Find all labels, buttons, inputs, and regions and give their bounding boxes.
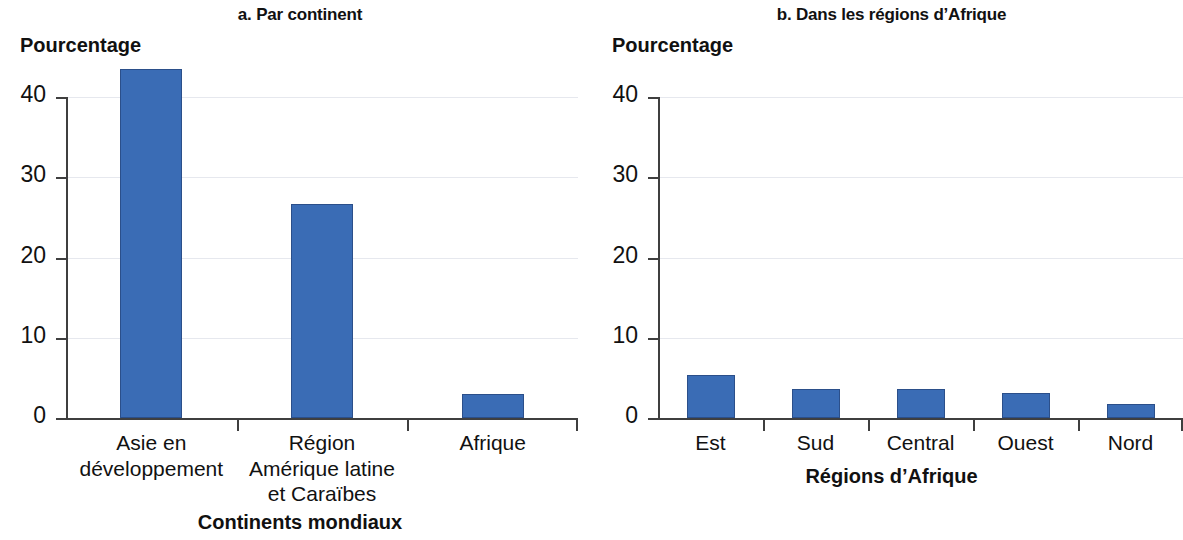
figure-two-bar-charts: a. Par continent Pourcentage 010203040As… [0, 0, 1183, 540]
bar [1107, 404, 1155, 418]
x-axis-title: Continents mondiaux [0, 511, 600, 534]
panel-a-title: a. Par continent [0, 5, 600, 25]
y-axis-tick-label: 0 [0, 402, 46, 429]
y-axis-tick-label: 30 [592, 161, 638, 188]
gridline [658, 338, 1183, 339]
gridline [658, 97, 1183, 98]
bar [687, 375, 735, 418]
panel-b-y-axis-label: Pourcentage [612, 34, 733, 57]
y-axis-tick-label: 40 [0, 81, 46, 108]
y-axis-tick-label: 10 [0, 322, 46, 349]
gridline [658, 177, 1183, 178]
x-axis-tick [576, 420, 578, 431]
bar [462, 394, 524, 418]
bar [897, 389, 945, 418]
panel-b-title: b. Dans les régions d’Afrique [600, 5, 1183, 25]
x-axis-category-label: Nord [1058, 430, 1183, 456]
y-axis-tick-label: 40 [592, 81, 638, 108]
bar [120, 69, 182, 418]
panel-b-regions-afrique: b. Dans les régions d’Afrique Pourcentag… [600, 0, 1183, 540]
panel-a-par-continent: a. Par continent Pourcentage 010203040As… [0, 0, 600, 540]
x-axis-line [658, 418, 1183, 420]
x-axis-line [66, 418, 578, 420]
y-axis-tick-label: 20 [592, 242, 638, 269]
bar [1002, 393, 1050, 418]
panel-a-y-axis-label: Pourcentage [20, 34, 141, 57]
x-axis-title: Régions d’Afrique [600, 465, 1183, 488]
bar [792, 389, 840, 418]
gridline [658, 258, 1183, 259]
bar [291, 204, 353, 418]
x-axis-category-label: Afrique [387, 430, 598, 456]
y-axis-tick-label: 30 [0, 161, 46, 188]
y-axis-tick-label: 0 [592, 402, 638, 429]
y-axis-line [658, 97, 660, 420]
y-axis-tick-label: 10 [592, 322, 638, 349]
y-axis-tick-label: 20 [0, 242, 46, 269]
y-axis-line [66, 97, 68, 420]
